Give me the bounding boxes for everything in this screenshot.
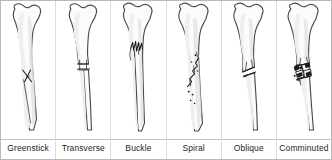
label-row-comminuted: Comminuted	[277, 139, 331, 160]
label-row-spiral: Spiral	[167, 139, 221, 160]
panel-label: Oblique	[222, 143, 276, 153]
label-row-transverse: Transverse	[56, 139, 110, 160]
panel-label: Spiral	[167, 143, 221, 153]
panel-comminuted: Comminuted	[277, 1, 331, 159]
label-row-buckle: Buckle	[111, 139, 165, 160]
panel-label: Comminuted	[277, 143, 331, 153]
bone-greenstick-icon	[1, 1, 55, 139]
panel-label: Buckle	[111, 143, 165, 153]
panel-greenstick: Greenstick	[1, 1, 56, 159]
panel-row: Greenstick Transvers	[1, 1, 331, 159]
bone-buckle-icon	[111, 1, 165, 139]
panel-spiral: Spiral	[167, 1, 222, 159]
label-row-greenstick: Greenstick	[1, 139, 55, 160]
panel-label: Greenstick	[1, 143, 55, 153]
bone-oblique-icon	[222, 1, 276, 139]
bone-spiral-icon	[167, 1, 221, 139]
label-row-oblique: Oblique	[222, 139, 276, 160]
bone-transverse-icon	[56, 1, 110, 139]
panel-label: Transverse	[56, 143, 110, 153]
panel-transverse: Transverse	[56, 1, 111, 159]
bone-comminuted-icon	[277, 1, 331, 139]
panel-buckle: Buckle	[111, 1, 166, 159]
panel-oblique: Oblique	[222, 1, 277, 159]
fracture-types-figure: Greenstick Transvers	[0, 0, 332, 160]
